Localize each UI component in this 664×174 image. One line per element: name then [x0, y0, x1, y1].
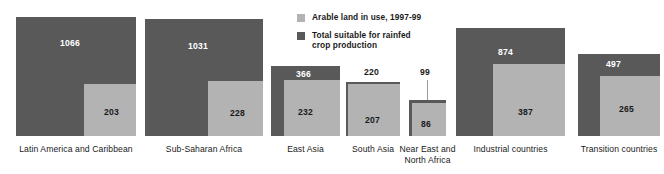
- value-label-in-use-transition-countries: 265: [619, 105, 634, 114]
- value-label-total-near-east-and-north-africa: 99: [420, 68, 430, 77]
- bar-in-use-south-asia: [348, 84, 400, 136]
- value-label-total-industrial-countries: 874: [498, 48, 513, 57]
- bar-group-sub-saharan-africa: 1031 228 Sub-Saharan Africa: [145, 19, 263, 136]
- value-label-total-transition-countries: 497: [606, 60, 621, 69]
- value-label-total-east-asia: 366: [296, 70, 311, 79]
- value-label-total-south-asia: 220: [364, 68, 379, 77]
- proportional-area-bar-chart: Arable land in use, 1997-99 Total suitab…: [0, 0, 664, 174]
- bar-group-east-asia: 366 232 East Asia: [271, 66, 340, 136]
- value-label-in-use-sub-saharan-africa: 228: [230, 109, 245, 118]
- bar-group-near-east-and-north-africa: 99 86 Near East and North Africa: [409, 100, 446, 136]
- value-label-total-sub-saharan-africa: 1031: [188, 42, 208, 51]
- category-label-sub-saharan-africa: Sub-Saharan Africa: [140, 144, 268, 155]
- value-label-in-use-south-asia: 207: [365, 116, 380, 125]
- bar-group-latin-america-and-caribbean: 1066 203 Latin America and Caribbean: [16, 17, 136, 136]
- category-label-transition-countries: Transition countries: [572, 144, 664, 155]
- value-label-in-use-near-east-and-north-africa: 86: [421, 120, 431, 129]
- bar-group-transition-countries: 497 265 Transition countries: [578, 54, 660, 136]
- value-label-in-use-industrial-countries: 387: [518, 108, 533, 117]
- value-label-in-use-latin-america-and-caribbean: 203: [104, 108, 119, 117]
- value-label-in-use-east-asia: 232: [298, 108, 313, 117]
- bar-group-south-asia: 220 207 South Asia: [346, 82, 400, 136]
- leader-line-near-east-and-north-africa: [427, 80, 428, 100]
- category-label-industrial-countries: Industrial countries: [449, 144, 572, 155]
- plot-area: 1066 203 Latin America and Caribbean 103…: [0, 0, 664, 174]
- value-label-total-latin-america-and-caribbean: 1066: [60, 39, 80, 48]
- bar-in-use-industrial-countries: [493, 64, 565, 136]
- bar-group-industrial-countries: 874 387 Industrial countries: [456, 28, 565, 136]
- category-label-latin-america-and-caribbean: Latin America and Caribbean: [8, 144, 144, 155]
